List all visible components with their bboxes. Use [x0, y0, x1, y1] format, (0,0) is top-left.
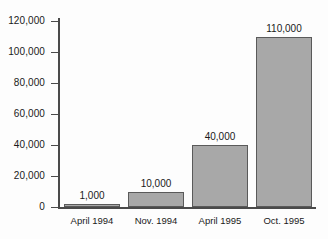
bar [128, 192, 184, 208]
y-axis-tick-mark [51, 52, 59, 53]
x-axis-category-label: April 1994 [60, 215, 124, 226]
y-axis-tick-label: 120,000 [8, 16, 45, 26]
y-axis-tick-mark [51, 114, 59, 115]
y-axis-tick-label: 40,000 [14, 140, 45, 150]
x-axis-line [58, 207, 316, 209]
bar-value-label: 110,000 [252, 24, 316, 34]
bar-value-label: 1,000 [60, 191, 124, 201]
y-axis-tick-label: 80,000 [14, 78, 45, 88]
bar-chart: 020,00040,00060,00080,000100,000120,000 … [0, 0, 328, 239]
y-axis-tick-label: 60,000 [14, 109, 45, 119]
bar [192, 145, 248, 207]
bar-value-label: 40,000 [188, 132, 252, 142]
x-axis-category-label: Nov. 1994 [124, 215, 188, 226]
bar [256, 37, 312, 208]
y-axis-tick-label: 20,000 [14, 171, 45, 181]
x-axis-category-label: Oct. 1995 [252, 215, 316, 226]
y-axis-tick-label: 0 [39, 202, 45, 212]
y-axis-tick-mark [51, 145, 59, 146]
bar-value-label: 10,000 [124, 179, 188, 189]
y-axis-tick-mark [51, 21, 59, 22]
y-axis-tick-label: 100,000 [8, 47, 45, 57]
y-axis-tick-mark [51, 83, 59, 84]
x-axis-category-label: April 1995 [188, 215, 252, 226]
y-axis-tick-mark [51, 176, 59, 177]
